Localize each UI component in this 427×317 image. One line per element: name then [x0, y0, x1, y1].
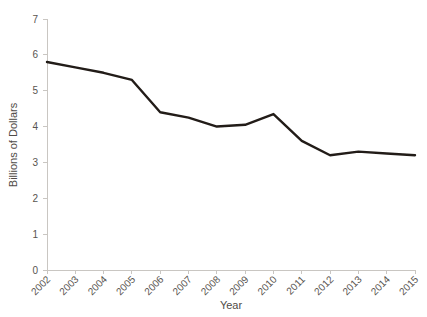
- y-tick-label: 6: [32, 49, 38, 60]
- line-chart-figure: 01234567 Billions of Dollars 20022003200…: [0, 0, 427, 317]
- x-tick-label: 2012: [312, 273, 336, 297]
- y-tick-label: 0: [32, 265, 38, 276]
- x-tick-label: 2008: [199, 273, 223, 297]
- y-tick-label: 1: [32, 229, 38, 240]
- x-tick-label: 2010: [255, 273, 279, 297]
- data-line-series-0: [47, 62, 415, 155]
- data-series-group: [47, 62, 415, 155]
- y-axis-title: Billions of Dollars: [7, 102, 19, 187]
- chart-canvas: 01234567 Billions of Dollars 20022003200…: [0, 0, 427, 317]
- y-tick-label: 4: [32, 121, 38, 132]
- x-tick-label: 2009: [227, 273, 251, 297]
- y-tick-label: 2: [32, 193, 38, 204]
- x-tick-label: 2006: [142, 273, 166, 297]
- y-tick-labels: 01234567: [32, 14, 38, 276]
- y-axis: 01234567 Billions of Dollars: [7, 14, 47, 276]
- x-tick-label: 2002: [29, 273, 53, 297]
- x-tick-label: 2003: [57, 273, 81, 297]
- x-tick-label: 2013: [340, 273, 364, 297]
- x-axis-title: Year: [220, 299, 243, 311]
- x-tick-label: 2011: [284, 273, 307, 296]
- y-tick-label: 5: [32, 85, 38, 96]
- x-tick-label: 2004: [86, 273, 110, 297]
- x-tick-label: 2007: [170, 273, 194, 297]
- x-tick-label: 2014: [369, 273, 393, 297]
- y-tick-label: 7: [32, 14, 38, 25]
- x-axis: 2002200320042005200620072008200920102011…: [29, 270, 421, 311]
- x-tick-marks: [47, 270, 415, 274]
- x-tick-label: 2005: [114, 273, 138, 297]
- y-tick-marks: [43, 19, 47, 270]
- x-tick-label: 2015: [397, 273, 421, 297]
- x-tick-labels: 2002200320042005200620072008200920102011…: [29, 273, 421, 297]
- y-tick-label: 3: [32, 157, 38, 168]
